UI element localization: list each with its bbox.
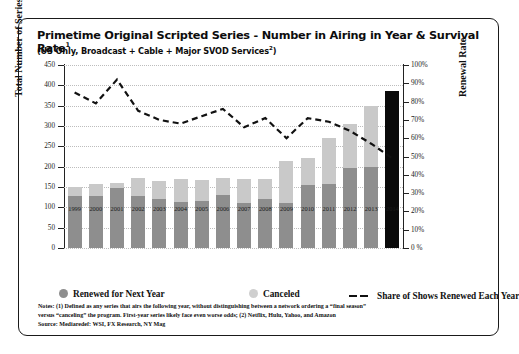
legend-item-1[interactable]: Renewed for Next Year <box>59 283 165 296</box>
legend-label: Renewed for Next Year <box>73 289 165 299</box>
y-axis-left-label: 450 <box>25 61 55 69</box>
y-axis-right-label: 50% <box>411 153 445 161</box>
notes-line-2: versus “canceling” the program. First-ye… <box>38 311 486 320</box>
y-axis-right-label: 90% <box>411 79 445 87</box>
chart-notes: Notes: (1) Defined as any series that ai… <box>38 302 486 329</box>
y-axis-right-tick <box>403 83 409 84</box>
y-axis-left-label: 50 <box>25 224 55 232</box>
y-axis-left-label: 400 <box>25 81 55 89</box>
y-axis-left-label: 200 <box>25 163 55 171</box>
y-axis-right-tick <box>403 157 409 158</box>
legend-label: Canceled <box>263 289 300 299</box>
legend-label: Share of Shows Renewed Each Year <box>377 291 519 301</box>
y-axis-left-label: 150 <box>25 183 55 191</box>
y-axis-right-tick <box>403 175 409 176</box>
renewal-rate-line <box>64 65 403 248</box>
y-axis-left-label: 350 <box>25 102 55 110</box>
y-axis-right-tick <box>403 248 409 249</box>
y-axis-right-tick <box>403 193 409 194</box>
notes-line-3: Source: Mediaredef: WSI, FX Research, NY… <box>38 320 486 329</box>
y-axis-right-label: 70% <box>411 116 445 124</box>
y-axis-right-tick <box>403 120 409 121</box>
renewal-rate-path <box>75 80 393 159</box>
y-axis-left-label: 250 <box>25 142 55 150</box>
grid-line <box>64 248 403 249</box>
dashed-line-icon <box>349 283 371 301</box>
chart-card: Primetime Original Scripted Series - Num… <box>18 18 499 336</box>
y-axis-right-tick <box>403 138 409 139</box>
y-axis-right-label: 100% <box>411 61 445 69</box>
legend-item-3[interactable]: Share of Shows Renewed Each Year <box>349 283 519 296</box>
y-axis-right-tick <box>403 230 409 231</box>
y-axis-right-tick <box>403 102 409 103</box>
legend-swatch-circle-icon <box>249 289 258 298</box>
y-axis-left-tick <box>58 248 64 249</box>
legend-item-2[interactable]: Canceled <box>249 283 300 296</box>
chart-legend: Renewed for Next YearCanceledShare of Sh… <box>59 283 489 297</box>
y-axis-left-label: 100 <box>25 203 55 211</box>
y-axis-left-title: Total Number of Series <box>13 0 24 97</box>
y-axis-right-label: 30% <box>411 189 445 197</box>
y-axis-right-title: Renewal Rate <box>457 38 468 97</box>
y-axis-right-label: 60% <box>411 134 445 142</box>
legend-swatch-circle-icon <box>59 289 68 298</box>
y-axis-right-label: 20% <box>411 207 445 215</box>
notes-line-1: Notes: (1) Defined as any series that ai… <box>38 302 486 311</box>
y-axis-right-label: 80% <box>411 98 445 106</box>
y-axis-left-label: 0 <box>25 244 55 252</box>
y-axis-left-label: 300 <box>25 122 55 130</box>
y-axis-right-label: 0 % <box>411 244 445 252</box>
y-axis-right-label: 10% <box>411 226 445 234</box>
y-axis-right-tick <box>403 65 409 66</box>
y-axis-right-label: 40% <box>411 171 445 179</box>
